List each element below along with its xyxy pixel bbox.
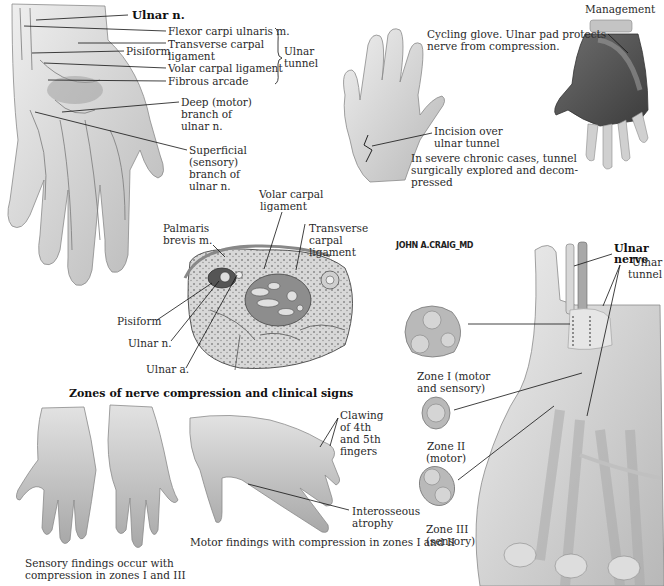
label-palmaris-brevis-2: brevis m.: [163, 234, 212, 246]
label-sensory-findings-2: compression in zones I and III: [25, 569, 186, 581]
sensory-hands-illustration: [16, 405, 178, 548]
ulnar-tunnel-dissection-illustration: [476, 242, 664, 586]
label-palmaris-brevis-1: Palmaris: [163, 222, 209, 234]
label-ulnar-n-cs: Ulnar n.: [128, 337, 172, 349]
wrist-cross-section-illustration: [185, 246, 353, 370]
label-ulnar-tunnel-top-2: tunnel: [284, 57, 318, 69]
label-superficial-branch-1: Superficial: [189, 144, 247, 156]
zone-cross-sections: [405, 306, 461, 511]
label-zone-1-1: Zone I (motor: [417, 370, 490, 382]
clawed-hand-illustration: [190, 415, 340, 532]
label-deep-branch-2: branch of: [181, 108, 232, 120]
label-deep-branch-1: Deep (motor): [181, 96, 252, 108]
label-clawing-2: of 4th: [340, 421, 371, 433]
cycling-glove-illustration: [555, 20, 648, 169]
label-clawing-4: fingers: [340, 445, 377, 457]
label-cycling-glove-1: Cycling glove. Ulnar pad protects: [427, 28, 606, 40]
label-volar-carpal-ligament: Volar carpal ligament: [168, 62, 283, 74]
label-superficial-branch-3: branch of: [189, 168, 240, 180]
label-transverse-carpal-cs-2: carpal: [309, 234, 343, 246]
label-clawing-1: Clawing: [340, 409, 383, 421]
artist-signature: JOHN A.CRAIG_MD: [396, 241, 473, 250]
label-incision-1: Incision over: [434, 125, 503, 137]
label-volar-carpal-lig-cs-2: ligament: [260, 200, 307, 212]
label-interosseous-atrophy-2: atrophy: [352, 517, 393, 529]
label-transverse-carpal-cs-3: ligament: [309, 246, 356, 258]
label-superficial-branch-2: (sensory): [189, 156, 238, 168]
label-ulnar-a-cs: Ulnar a.: [146, 363, 189, 375]
label-ulnar-tunnel-right-1: Ulnar: [632, 256, 662, 268]
label-severe-cases-2: surgically explored and decom-: [411, 164, 578, 176]
label-ulnar-tunnel-top-1: Ulnar: [284, 45, 314, 57]
label-ulnar-tunnel-right-2: tunnel: [628, 268, 662, 280]
anatomy-illustration: [0, 0, 664, 586]
label-deep-branch-3: ulnar n.: [181, 120, 223, 132]
label-motor-findings: Motor findings with compression in zones…: [190, 536, 455, 548]
label-transverse-carpal-ligament-1: Transverse carpal: [168, 38, 264, 50]
label-interosseous-atrophy-1: Interosseous: [352, 505, 420, 517]
label-incision-2: ulnar tunnel: [434, 137, 500, 149]
label-flexor-carpi-ulnaris: Flexor carpi ulnaris m.: [168, 25, 290, 37]
label-pisiform-cs: Pisiform: [117, 315, 161, 327]
label-ulnar-n: Ulnar n.: [132, 9, 185, 21]
label-severe-cases-3: pressed: [411, 176, 453, 188]
label-transverse-carpal-cs-1: Transverse: [309, 222, 368, 234]
zones-section-title: Zones of nerve compression and clinical …: [69, 387, 353, 400]
label-zone-3-2: (sensory): [426, 535, 475, 547]
label-zone-1-2: and sensory): [417, 382, 485, 394]
label-fibrous-arcade: Fibrous arcade: [168, 75, 249, 87]
label-cycling-glove-2: nerve from compression.: [427, 40, 560, 52]
label-severe-cases-1: In severe chronic cases, tunnel: [411, 152, 577, 164]
label-zone-3-1: Zone III: [426, 523, 468, 535]
label-superficial-branch-4: ulnar n.: [189, 180, 231, 192]
label-transverse-carpal-ligament-2: ligament: [168, 50, 215, 62]
label-clawing-3: and 5th: [340, 433, 381, 445]
label-management-heading: Management: [585, 3, 655, 15]
label-sensory-findings-1: Sensory findings occur with: [25, 557, 174, 569]
label-zone-2-2: (motor): [426, 452, 466, 464]
label-zone-2-1: Zone II: [427, 440, 465, 452]
label-volar-carpal-lig-cs-1: Volar carpal: [259, 188, 323, 200]
label-pisiform-top: Pisiform: [126, 45, 170, 57]
